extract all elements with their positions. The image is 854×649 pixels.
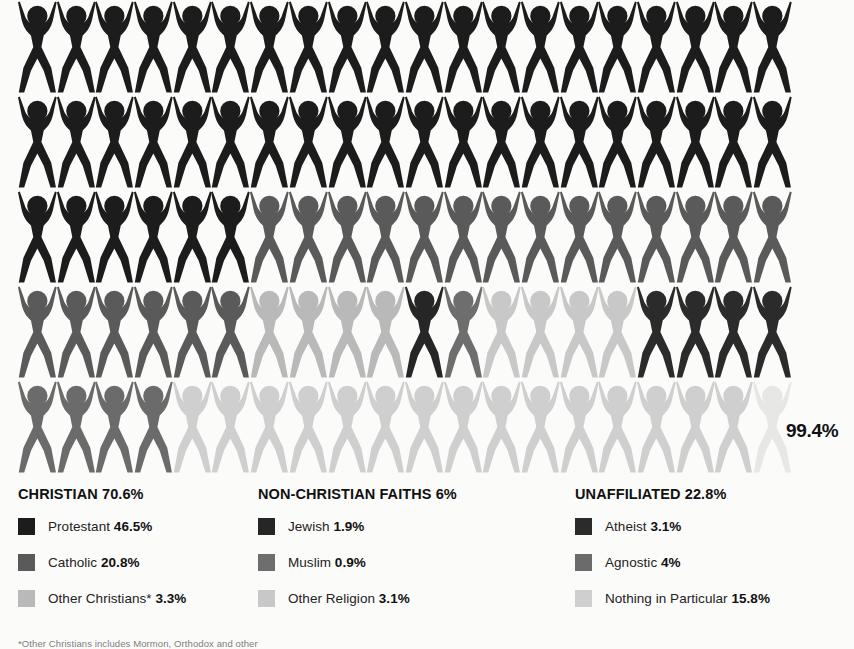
pictogram-figure (328, 285, 367, 380)
pictogram-figure (444, 190, 483, 285)
pictogram-row-5 (18, 380, 818, 475)
pictogram-figure (482, 0, 521, 95)
pictogram-figure (676, 380, 715, 475)
footnote: *Other Christians includes Mormon, Ortho… (18, 638, 258, 649)
pictogram-figure (211, 0, 250, 95)
pictogram-figure (134, 190, 173, 285)
pictogram-figure (173, 285, 212, 380)
pictogram-figure (134, 0, 173, 95)
legend-item-muslim[interactable]: Muslim 0.9% (258, 551, 575, 573)
legend-item-nothing-in-particular[interactable]: Nothing in Particular 15.8% (575, 587, 854, 609)
pictogram-figure (444, 95, 483, 190)
legend-item-protestant[interactable]: Protestant 46.5% (18, 515, 258, 537)
pictogram-row-3 (18, 190, 818, 285)
pictogram-figure (18, 0, 57, 95)
pictogram-figure (57, 0, 96, 95)
pictogram-figure (714, 190, 753, 285)
pictogram-figure (405, 380, 444, 475)
pictogram-figure (598, 0, 637, 95)
pictogram-figure (714, 285, 753, 380)
pictogram-figure (598, 190, 637, 285)
legend-item-catholic[interactable]: Catholic 20.8% (18, 551, 258, 573)
pictogram-figure (521, 285, 560, 380)
pictogram-figure (482, 285, 521, 380)
pictogram-figure (211, 190, 250, 285)
pictogram-figure (18, 380, 57, 475)
legend-swatch-icon (575, 518, 592, 535)
legend-item-other-christians[interactable]: Other Christians* 3.3% (18, 587, 258, 609)
pictogram-figure (676, 285, 715, 380)
legend-header-unaffiliated: UNAFFILIATED 22.8% (575, 486, 854, 502)
pictogram-figure (211, 380, 250, 475)
pictogram-figure (444, 285, 483, 380)
pictogram-figure (444, 380, 483, 475)
pictogram-figure (598, 95, 637, 190)
legend-label: Other Christians* 3.3% (48, 591, 186, 606)
pictogram-figure (173, 95, 212, 190)
pictogram-figure (366, 380, 405, 475)
pictogram-figure (598, 285, 637, 380)
pictogram-figure (57, 380, 96, 475)
pictogram-figure (560, 380, 599, 475)
pictogram-figure (637, 190, 676, 285)
legend-swatch-icon (18, 554, 35, 571)
pictogram-figure (482, 380, 521, 475)
pictogram-figure (289, 95, 328, 190)
pictogram-figure (211, 285, 250, 380)
pictogram-figure (521, 95, 560, 190)
pictogram-figure (328, 380, 367, 475)
pictogram-figure (405, 285, 444, 380)
pictogram-figure (250, 0, 289, 95)
pictogram-figure (18, 95, 57, 190)
pictogram-figure (289, 285, 328, 380)
legend-swatch-icon (258, 590, 275, 607)
pictogram-figure (753, 285, 792, 380)
pictogram-figure (95, 190, 134, 285)
pictogram-figure (134, 285, 173, 380)
legend-swatch-icon (575, 554, 592, 571)
pictogram-row-2 (18, 95, 818, 190)
legend-swatch-icon (575, 590, 592, 607)
pictogram-figure (753, 0, 792, 95)
legend-label: Muslim 0.9% (288, 555, 366, 570)
pictogram-figure (366, 95, 405, 190)
pictogram-figure (95, 0, 134, 95)
pictogram-figure (134, 380, 173, 475)
pictogram-figure (521, 0, 560, 95)
legend-item-jewish[interactable]: Jewish 1.9% (258, 515, 575, 537)
legend-item-agnostic[interactable]: Agnostic 4% (575, 551, 854, 573)
legend-header-christian: CHRISTIAN 70.6% (18, 486, 258, 502)
pictogram-figure (289, 190, 328, 285)
legend-column-unaffiliated: UNAFFILIATED 22.8%Atheist 3.1%Agnostic 4… (575, 486, 854, 623)
pictogram-figure (173, 380, 212, 475)
legend-column-non-christian-faiths: NON-CHRISTIAN FAITHS 6%Jewish 1.9%Muslim… (258, 486, 575, 623)
pictogram-figure (211, 95, 250, 190)
legend-item-other-religion[interactable]: Other Religion 3.1% (258, 587, 575, 609)
legend-item-atheist[interactable]: Atheist 3.1% (575, 515, 854, 537)
pictogram-figure (560, 190, 599, 285)
pictogram-figure (250, 285, 289, 380)
pictogram-figure (637, 285, 676, 380)
pictogram-figure (405, 0, 444, 95)
pictogram-figure (521, 190, 560, 285)
total-percentage-label: 99.4% (786, 420, 838, 442)
pictogram-figure (714, 95, 753, 190)
pictogram-figure (753, 95, 792, 190)
pictogram-figure (676, 95, 715, 190)
pictogram-figure (714, 0, 753, 95)
pictogram-figure (676, 0, 715, 95)
pictogram-figure (328, 190, 367, 285)
pictogram-figure (637, 380, 676, 475)
legend-swatch-icon (18, 518, 35, 535)
legend-header-non-christian-faiths: NON-CHRISTIAN FAITHS 6% (258, 486, 575, 502)
pictogram-figure (250, 95, 289, 190)
pictogram-figure (676, 190, 715, 285)
pictogram-figure (482, 95, 521, 190)
legend-label: Atheist 3.1% (605, 519, 681, 534)
pictogram-figure (560, 95, 599, 190)
pictogram-figure (18, 190, 57, 285)
pictogram-chart (0, 0, 854, 480)
pictogram-figure (521, 380, 560, 475)
pictogram-figure (57, 95, 96, 190)
pictogram-figure (366, 285, 405, 380)
